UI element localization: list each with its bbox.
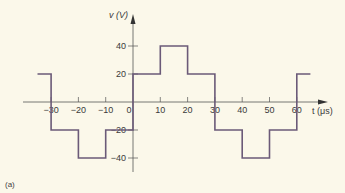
y-tick-label: 20 [116, 69, 126, 79]
chart: −30−20−1001020304050604020−20−40v (V)t (… [0, 0, 345, 193]
y-axis-label: v (V) [109, 10, 128, 20]
x-tick-label: 40 [237, 105, 247, 115]
y-axis-arrow-icon [131, 14, 136, 24]
x-tick-label: 10 [155, 105, 165, 115]
x-axis-label: t (μs) [312, 106, 333, 116]
x-tick-label: −20 [71, 105, 86, 115]
y-tick-label: 40 [116, 41, 126, 51]
x-axis-arrow-icon [318, 100, 328, 105]
x-tick-label: 20 [183, 105, 193, 115]
y-tick-label: −40 [111, 153, 126, 163]
x-tick-label: 0 [126, 105, 131, 115]
figure-caption: (a) [5, 180, 15, 189]
x-tick-label: 50 [264, 105, 274, 115]
x-tick-label: −10 [98, 105, 113, 115]
